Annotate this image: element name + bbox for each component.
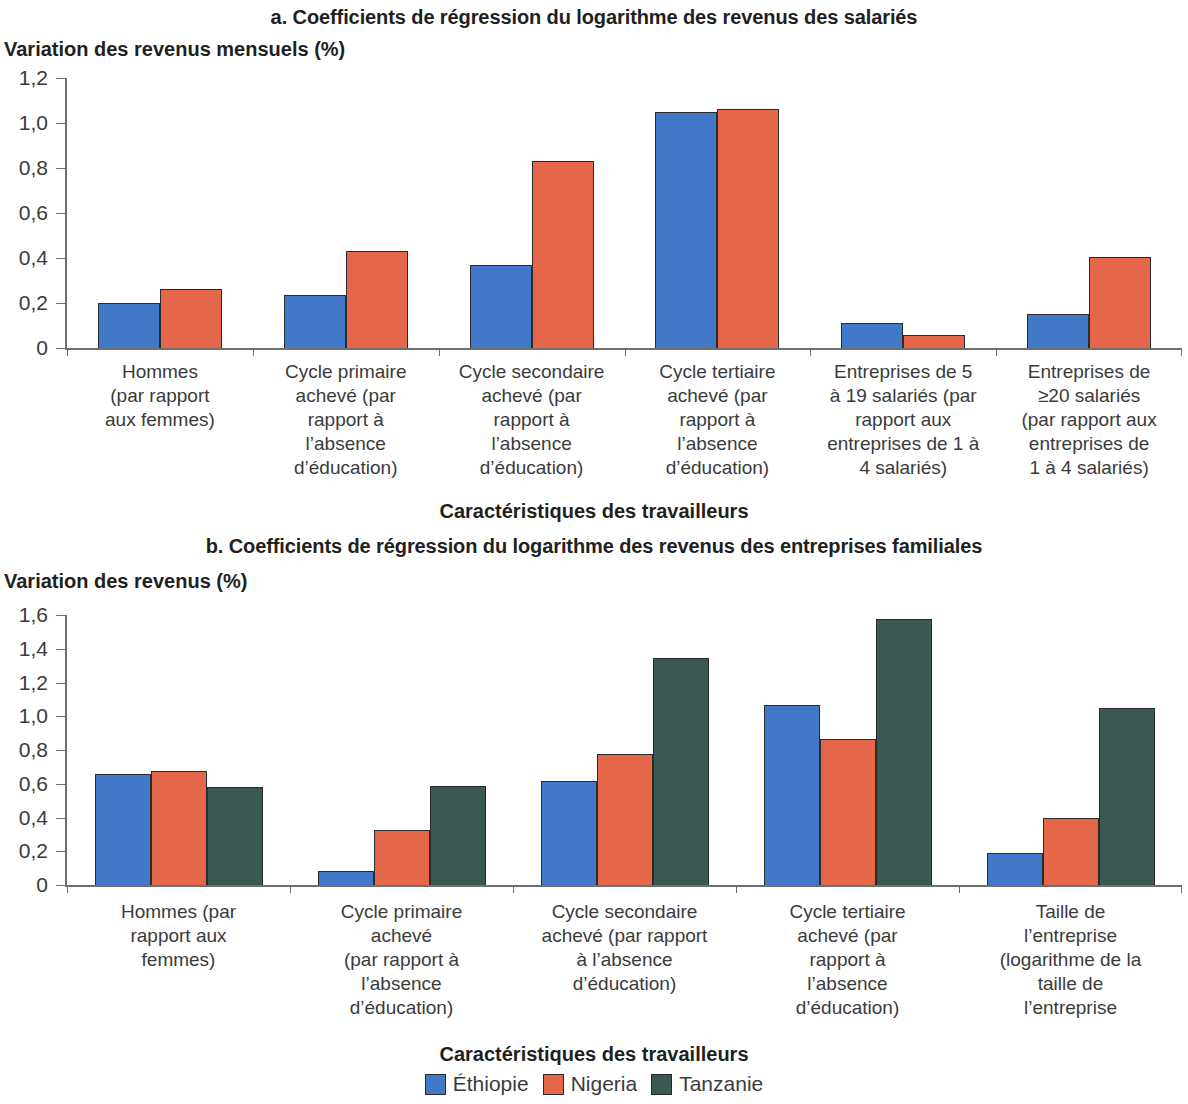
bar-éthiopie xyxy=(764,705,820,887)
y-tick-mark xyxy=(56,649,65,650)
x-axis-category-label: Entreprises de 5à 19 salariés (parrappor… xyxy=(810,360,996,480)
x-axis-category-label: Cycle tertiaireachevé (parrapport àl’abs… xyxy=(736,900,959,1020)
panel-a-plot: 00,20,40,60,81,01,2 xyxy=(0,78,1188,356)
panel-a-x-axis-line xyxy=(65,348,1182,350)
x-tick-mark xyxy=(290,885,291,893)
x-axis-category-label: Entreprises de≥20 salariés(par rapport a… xyxy=(996,360,1182,480)
bar-nigeria xyxy=(1089,257,1151,350)
figure-root: a. Coefficients de régression du logarit… xyxy=(0,0,1188,1104)
y-tick-label: 0,8 xyxy=(19,156,48,180)
legend-item: Tanzanie xyxy=(651,1072,763,1096)
x-axis-category-label: Cycle primaireachevé (parrapport àl’abse… xyxy=(253,360,439,480)
bar-tanzanie xyxy=(653,658,709,887)
bar-nigeria xyxy=(717,109,779,350)
y-tick-label: 1,2 xyxy=(19,671,48,695)
panel-a-title: a. Coefficients de régression du logarit… xyxy=(0,6,1188,29)
legend-label: Nigeria xyxy=(571,1072,638,1096)
bar-éthiopie xyxy=(98,303,160,350)
y-tick-mark xyxy=(56,168,65,169)
x-tick-mark xyxy=(253,348,254,356)
panel-a-x-labels: Hommes(par rapportaux femmes)Cycle prima… xyxy=(0,360,1188,495)
bar-tanzanie xyxy=(876,619,932,887)
y-tick-label: 0,8 xyxy=(19,738,48,762)
bar-tanzanie xyxy=(207,787,263,887)
x-axis-end-tick xyxy=(67,885,68,893)
x-axis-end-tick xyxy=(67,348,68,356)
y-tick-mark xyxy=(56,885,65,886)
y-tick-mark xyxy=(56,78,65,79)
bar-éthiopie xyxy=(1027,314,1089,350)
y-tick-mark xyxy=(56,851,65,852)
y-tick-mark xyxy=(56,818,65,819)
panel-a-bars xyxy=(67,78,1182,350)
bar-éthiopie xyxy=(541,781,597,887)
bar-éthiopie xyxy=(470,265,532,351)
panel-b-x-axis-title: Caractéristiques des travailleurs xyxy=(0,1043,1188,1066)
y-tick-mark xyxy=(56,213,65,214)
legend-swatch-icon xyxy=(651,1074,672,1095)
legend-item: Nigeria xyxy=(543,1072,638,1096)
x-axis-category-label: Cycle primaireachevé(par rapport àl’abse… xyxy=(290,900,513,1020)
panel-b-x-axis-line xyxy=(65,885,1182,887)
y-tick-label: 0,4 xyxy=(19,806,48,830)
y-tick-label: 0,2 xyxy=(19,839,48,863)
bar-éthiopie xyxy=(284,295,346,350)
y-tick-mark xyxy=(56,683,65,684)
panel-b-bars xyxy=(67,615,1182,887)
panel-a-x-axis-title: Caractéristiques des travailleurs xyxy=(0,500,1188,523)
bar-group xyxy=(513,615,736,887)
y-tick-mark xyxy=(56,303,65,304)
x-tick-mark xyxy=(625,348,626,356)
panel-a-y-axis-title: Variation des revenus mensuels (%) xyxy=(4,38,345,61)
y-tick-label: 0 xyxy=(36,873,48,897)
bar-group xyxy=(253,78,439,350)
bar-nigeria xyxy=(151,771,207,887)
y-tick-label: 1,4 xyxy=(19,637,48,661)
bar-group xyxy=(290,615,513,887)
y-tick-mark xyxy=(56,123,65,124)
y-tick-label: 1,0 xyxy=(19,111,48,135)
y-tick-mark xyxy=(56,784,65,785)
x-axis-category-label: Hommes(par rapportaux femmes) xyxy=(67,360,253,432)
bar-éthiopie xyxy=(841,323,903,350)
legend: ÉthiopieNigeriaTanzanie xyxy=(0,1072,1188,1096)
bar-group xyxy=(810,78,996,350)
y-tick-mark xyxy=(56,750,65,751)
y-tick-mark xyxy=(56,348,65,349)
bar-nigeria xyxy=(597,754,653,887)
bar-group xyxy=(996,78,1182,350)
panel-b-title: b. Coefficients de régression du logarit… xyxy=(0,535,1188,558)
x-axis-category-label: Cycle tertiaireachevé (parrapport àl’abs… xyxy=(625,360,811,480)
y-tick-label: 0,6 xyxy=(19,201,48,225)
y-tick-mark xyxy=(56,716,65,717)
bar-éthiopie xyxy=(95,774,151,887)
legend-swatch-icon xyxy=(425,1074,446,1095)
legend-label: Éthiopie xyxy=(453,1072,529,1096)
x-tick-mark xyxy=(959,885,960,893)
bar-nigeria xyxy=(346,251,408,350)
y-tick-label: 0 xyxy=(36,336,48,360)
bar-tanzanie xyxy=(430,786,486,887)
x-axis-end-tick xyxy=(1181,885,1182,893)
legend-label: Tanzanie xyxy=(679,1072,763,1096)
bar-nigeria xyxy=(820,739,876,888)
bar-group xyxy=(959,615,1182,887)
x-tick-mark xyxy=(439,348,440,356)
bar-group xyxy=(736,615,959,887)
y-tick-label: 0,4 xyxy=(19,246,48,270)
y-tick-mark xyxy=(56,615,65,616)
bar-éthiopie xyxy=(987,853,1043,887)
bar-nigeria xyxy=(532,161,594,350)
x-tick-mark xyxy=(736,885,737,893)
legend-item: Éthiopie xyxy=(425,1072,529,1096)
x-axis-category-label: Taille del’entreprise(logarithme de lata… xyxy=(959,900,1182,1020)
bar-nigeria xyxy=(1043,818,1099,887)
x-axis-category-label: Hommes (parrapport auxfemmes) xyxy=(67,900,290,972)
panel-b-x-labels: Hommes (parrapport auxfemmes)Cycle prima… xyxy=(0,900,1188,1040)
x-axis-category-label: Cycle secondaireachevé (par rapportà l’a… xyxy=(513,900,736,996)
y-tick-label: 1,0 xyxy=(19,704,48,728)
panel-b-plot: 00,20,40,60,81,01,21,41,6 xyxy=(0,615,1188,893)
y-tick-label: 1,2 xyxy=(19,66,48,90)
bar-group xyxy=(439,78,625,350)
panel-b-y-ticks: 00,20,40,60,81,01,21,41,6 xyxy=(0,615,56,887)
